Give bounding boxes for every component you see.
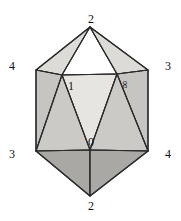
vertex-label-bottom-apex: 2: [84, 200, 98, 212]
vertex-label-upper-right: 3: [161, 60, 175, 72]
vertex-label-lower-left: 3: [5, 148, 19, 160]
icosahedron-drawing: [0, 0, 181, 221]
icosahedron-figure: 2 4 3 1 ∞ 0 3 4 2: [0, 0, 181, 221]
vertex-label-upper-left: 4: [5, 60, 19, 72]
vertex-label-center: 0: [84, 136, 98, 148]
vertex-label-inner-left: 1: [64, 80, 78, 92]
vertex-label-lower-right: 4: [161, 148, 175, 160]
vertex-label-inner-right: ∞: [119, 78, 130, 92]
vertex-label-top-apex: 2: [84, 13, 98, 25]
